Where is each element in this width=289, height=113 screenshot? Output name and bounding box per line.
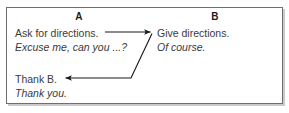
turn-utterance-label: Excuse me, can you ...?	[15, 40, 127, 54]
turn-b-give-directions: Give directions. Of course.	[157, 26, 229, 54]
turn-act-label: Thank B.	[15, 72, 67, 86]
dialogue-exchange-figure: A B Ask for directions. Excuse me, can y…	[0, 0, 289, 113]
turn-act-label: Give directions.	[157, 26, 229, 40]
turn-a-thank-b: Thank B. Thank you.	[15, 72, 67, 100]
turn-utterance-label: Of course.	[157, 40, 229, 54]
turn-utterance-label: Thank you.	[15, 86, 67, 100]
turn-a-ask-for-directions: Ask for directions. Excuse me, can you .…	[15, 26, 127, 54]
column-header-a: A	[62, 11, 96, 22]
turn-act-label: Ask for directions.	[15, 26, 127, 40]
column-header-b: B	[198, 11, 232, 22]
